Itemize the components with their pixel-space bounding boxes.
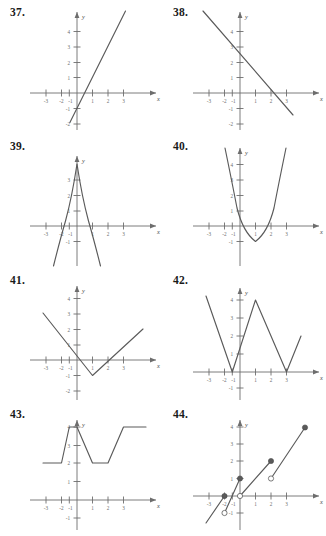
svg-text:-1: -1 <box>229 510 234 516</box>
svg-text:1: 1 <box>230 351 233 357</box>
svg-text:2: 2 <box>270 231 273 237</box>
svg-text:-1: -1 <box>231 231 236 237</box>
svg-text:-2: -2 <box>222 231 227 237</box>
axes-37 <box>30 12 156 130</box>
svg-text:-1: -1 <box>66 373 71 379</box>
svg-text:-1: -1 <box>229 239 234 245</box>
svg-text:3: 3 <box>67 44 70 50</box>
svg-text:3: 3 <box>230 315 233 321</box>
svg-text:-2: -2 <box>59 365 64 371</box>
curve-42 <box>206 296 301 372</box>
svg-text:1: 1 <box>91 98 94 104</box>
svg-text:-3: -3 <box>207 377 212 383</box>
svg-text:-1: -1 <box>68 365 73 371</box>
graph-43: -3 -2 -1 1 2 3 4 3 2 1 -1 x y <box>26 402 163 536</box>
svg-text:-3: -3 <box>207 231 212 237</box>
panel-42: 42. <box>163 268 326 402</box>
svg-text:3: 3 <box>285 98 288 104</box>
axes-40 <box>193 148 319 266</box>
svg-text:2: 2 <box>67 193 70 199</box>
svg-text:2: 2 <box>230 458 233 464</box>
svg-text:4: 4 <box>67 29 70 35</box>
svg-text:2: 2 <box>107 231 110 237</box>
y-axis-label-40: y <box>244 149 248 156</box>
curve-43 <box>43 427 146 463</box>
svg-text:3: 3 <box>285 231 288 237</box>
svg-text:-1: -1 <box>66 106 71 112</box>
ticks-38 <box>209 32 287 125</box>
tick-labels-43: -3 -2 -1 1 2 3 4 3 2 1 -1 <box>44 424 125 521</box>
panel-41: 41. <box>0 268 163 402</box>
svg-text:1: 1 <box>254 501 257 507</box>
svg-text:3: 3 <box>67 443 70 449</box>
axes-43 <box>30 420 156 530</box>
svg-text:-3: -3 <box>207 501 212 507</box>
axes-41 <box>30 286 156 400</box>
svg-text:4: 4 <box>230 162 233 168</box>
ticks-44 <box>209 427 287 513</box>
panel-38: 38. <box>163 0 326 134</box>
x-axis-label-37: x <box>156 95 160 102</box>
svg-text:1: 1 <box>254 377 257 383</box>
y-axis-label-38: y <box>244 13 248 20</box>
svg-text:3: 3 <box>67 311 70 317</box>
graph-44: -3 -2 -1 1 2 3 4 3 2 1 -1 x y <box>189 402 326 536</box>
svg-text:1: 1 <box>254 98 257 104</box>
svg-text:2: 2 <box>230 60 233 66</box>
svg-text:-2: -2 <box>222 377 227 383</box>
svg-text:2: 2 <box>107 365 110 371</box>
svg-text:1: 1 <box>91 505 94 511</box>
svg-text:2: 2 <box>67 60 70 66</box>
graph-40: -3 -2 -1 1 2 3 4 3 2 1 -1 x y <box>189 134 326 268</box>
problem-number-40: 40. <box>173 140 188 152</box>
svg-text:-2: -2 <box>59 505 64 511</box>
svg-text:2: 2 <box>107 98 110 104</box>
graph-38: -3 -2 -1 1 2 3 4 3 2 1 -1 -2 x y <box>189 0 326 134</box>
svg-text:-2: -2 <box>59 98 64 104</box>
ticks-37 <box>46 32 124 125</box>
tick-labels-39: -3 -2 -1 1 2 3 3 2 1 -1 <box>44 177 125 245</box>
svg-text:2: 2 <box>230 333 233 339</box>
svg-text:-1: -1 <box>229 106 234 112</box>
svg-text:3: 3 <box>230 441 233 447</box>
curve-38 <box>203 11 293 115</box>
svg-text:2: 2 <box>270 501 273 507</box>
y-axis-label-42: y <box>244 289 248 296</box>
svg-text:-1: -1 <box>68 231 73 237</box>
problem-number-37: 37. <box>10 6 25 18</box>
svg-text:1: 1 <box>230 208 233 214</box>
svg-text:-3: -3 <box>207 98 212 104</box>
problem-number-39: 39. <box>10 140 25 152</box>
svg-text:1: 1 <box>254 231 257 237</box>
graph-37: -3 -2 -1 1 2 3 4 3 2 1 -1 -2 x y <box>26 0 163 134</box>
closed-endpoints-44 <box>222 425 308 499</box>
svg-text:-3: -3 <box>44 98 49 104</box>
svg-text:3: 3 <box>122 505 125 511</box>
x-axis-label-42: x <box>319 374 323 381</box>
y-axis-label-44: y <box>244 421 248 428</box>
svg-text:4: 4 <box>230 29 233 35</box>
x-axis-label-43: x <box>156 502 160 509</box>
svg-text:-2: -2 <box>66 388 71 394</box>
tick-labels-38: -3 -2 -1 1 2 3 4 3 2 1 -1 -2 <box>207 29 288 128</box>
svg-text:-1: -1 <box>229 385 234 391</box>
svg-text:2: 2 <box>67 327 70 333</box>
axes-38 <box>193 12 319 130</box>
svg-text:4: 4 <box>67 296 70 302</box>
svg-text:1: 1 <box>230 476 233 482</box>
x-axis-label-41: x <box>156 362 160 369</box>
problem-number-38: 38. <box>173 6 188 18</box>
svg-text:3: 3 <box>285 501 288 507</box>
svg-text:3: 3 <box>122 231 125 237</box>
ticks-43 <box>46 427 124 518</box>
graph-41: -3 -2 -1 1 2 3 4 3 2 1 -1 -2 x y <box>26 268 163 402</box>
svg-text:-2: -2 <box>229 121 234 127</box>
svg-text:3: 3 <box>122 98 125 104</box>
svg-text:3: 3 <box>285 377 288 383</box>
panel-44: 44. <box>163 402 326 536</box>
problem-number-44: 44. <box>173 408 188 420</box>
x-axis-label-44: x <box>319 498 323 505</box>
svg-text:-1: -1 <box>68 98 73 104</box>
svg-text:-3: -3 <box>44 505 49 511</box>
problem-number-43: 43. <box>10 408 25 420</box>
